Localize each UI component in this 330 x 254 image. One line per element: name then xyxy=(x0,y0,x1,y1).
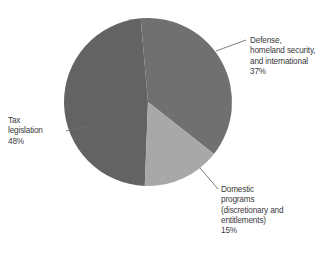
pie-chart-figure: Defense, homeland security, and internat… xyxy=(0,0,330,254)
pie-slice-tax-legislation[interactable] xyxy=(64,18,148,186)
leader-line-defense xyxy=(216,40,246,51)
leader-line-domestic xyxy=(200,168,218,189)
pie-label-defense: Defense, homeland security, and internat… xyxy=(250,36,328,77)
pie-label-tax-legislation: Tax legislation 48% xyxy=(8,116,66,147)
pie-label-domestic-programs: Domestic programs (discretionary and ent… xyxy=(221,185,319,236)
